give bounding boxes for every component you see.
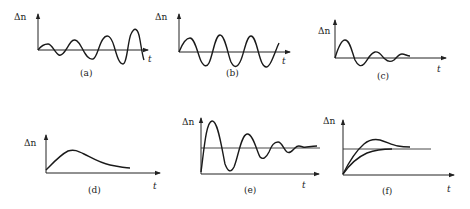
panel-e: Δn t (e): [182, 117, 320, 195]
panel-b: Δn t (b): [155, 12, 290, 78]
curve-a: [38, 29, 144, 64]
x-label-a: t: [148, 54, 152, 64]
curve-c: [335, 40, 410, 66]
panel-c: Δn t (c): [318, 20, 446, 81]
x-label-e: t: [302, 180, 306, 190]
curve-e: [201, 121, 317, 172]
y-label-d: Δn: [24, 138, 36, 148]
x-label-d: t: [153, 181, 157, 191]
panel-d: Δn t (d): [24, 135, 160, 195]
y-label-c: Δn: [318, 26, 330, 36]
x-label-b: t: [282, 56, 286, 66]
y-label-f: Δn: [323, 116, 335, 126]
y-label-a: Δn: [14, 12, 26, 22]
y-label-b: Δn: [155, 12, 167, 22]
panel-f: Δn t (f): [323, 116, 454, 196]
y-label-e: Δn: [182, 117, 194, 127]
caption-e: (e): [244, 185, 256, 195]
caption-b: (b): [226, 68, 239, 78]
caption-c: (c): [377, 71, 389, 81]
x-label-c: t: [437, 64, 441, 74]
caption-d: (d): [88, 185, 101, 195]
response-curves-figure: Δn t (a) Δn t (b) Δn t (c) Δn t (d) Δn t: [0, 0, 470, 209]
x-label-f: t: [447, 184, 451, 194]
caption-f: (f): [382, 186, 392, 196]
curve-b: [179, 35, 279, 67]
panel-a: Δn t (a): [14, 12, 152, 78]
caption-a: (a): [80, 68, 92, 78]
curve-d: [46, 150, 130, 170]
curve-f-overshoot: [343, 139, 410, 174]
